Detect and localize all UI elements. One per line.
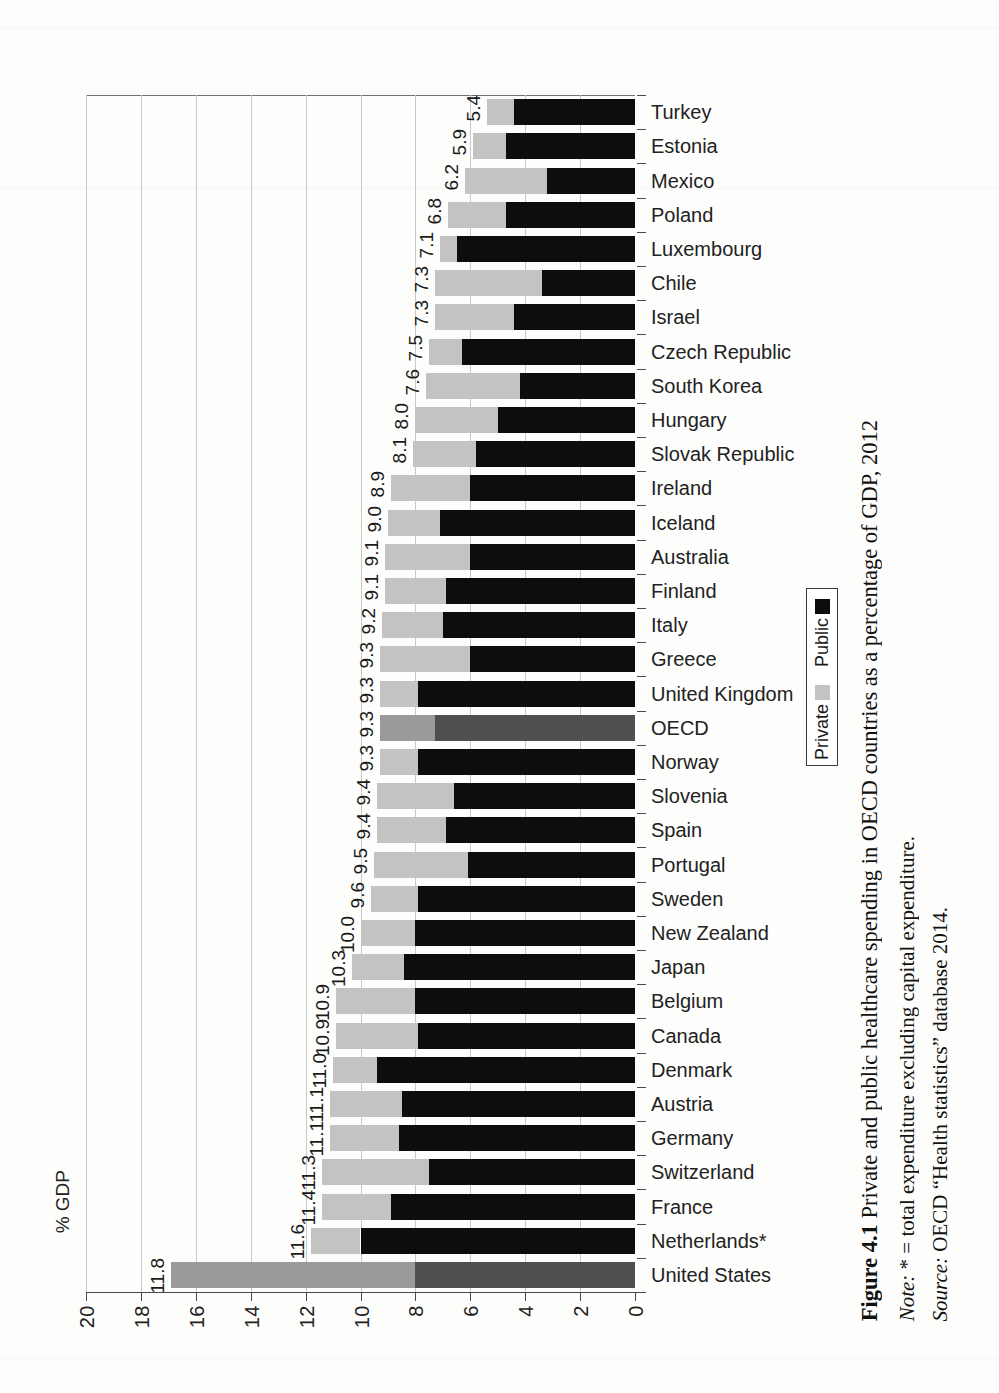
axis-tick-label: 16 xyxy=(186,1305,209,1328)
bar-segment-private xyxy=(487,99,514,125)
bar-value-label: 11.6 xyxy=(287,1224,309,1260)
axis-tick-label: 18 xyxy=(131,1305,154,1328)
category-label: Sweden xyxy=(651,888,723,911)
bar-segment-private xyxy=(336,988,416,1014)
bar-segment-public xyxy=(462,339,635,365)
bar-row xyxy=(0,1023,999,1049)
bar-row xyxy=(0,304,999,330)
bar-segment-public xyxy=(440,510,635,536)
bar-segment-public xyxy=(454,783,635,809)
source-prefix: Source: xyxy=(928,1256,952,1321)
bar-value-label: 9.5 xyxy=(350,848,372,874)
axis-tick xyxy=(361,1292,362,1301)
category-label: Finland xyxy=(651,580,717,603)
bar-row xyxy=(0,99,999,125)
category-tick xyxy=(637,676,646,677)
category-label: Italy xyxy=(651,614,688,637)
category-label: Greece xyxy=(651,648,717,671)
bar-value-label: 9.2 xyxy=(358,608,380,634)
category-label: Japan xyxy=(651,956,706,979)
category-label: Luxembourg xyxy=(651,238,762,261)
bar-segment-private xyxy=(435,304,515,330)
axis-tick xyxy=(470,1292,471,1301)
category-tick xyxy=(637,608,646,609)
bar-row xyxy=(0,1159,999,1185)
bar-value-label: 9.3 xyxy=(356,677,378,703)
category-label: Slovak Republic xyxy=(651,443,794,466)
category-label: Denmark xyxy=(651,1059,732,1082)
bar-segment-public xyxy=(361,1228,636,1254)
category-tick xyxy=(637,334,646,335)
bar-segment-public xyxy=(514,99,635,125)
bar-value-label: 9.4 xyxy=(353,779,375,805)
bar-value-label: 10.0 xyxy=(337,916,359,953)
category-label: Ireland xyxy=(651,477,712,500)
bar-segment-public xyxy=(457,236,635,262)
bar-value-label: 7.1 xyxy=(416,232,438,258)
figure-source: Source: OECD “Health statistics” databas… xyxy=(928,907,953,1321)
axis-tick xyxy=(251,1292,252,1301)
legend-swatch xyxy=(815,685,830,700)
bar-row xyxy=(0,920,999,946)
bar-segment-public xyxy=(443,612,635,638)
category-tick xyxy=(637,300,646,301)
bar-row xyxy=(0,646,999,672)
bar-segment-private xyxy=(448,202,506,228)
bar-row xyxy=(0,783,999,809)
bar-segment-private xyxy=(330,1125,399,1151)
bar-segment-private xyxy=(382,612,442,638)
legend-entry: Public xyxy=(807,599,837,667)
bar-row xyxy=(0,1057,999,1083)
figure-note: Note: * = total expenditure excluding ca… xyxy=(895,836,920,1321)
bar-value-label: 10.3 xyxy=(328,950,350,987)
bar-row xyxy=(0,510,999,536)
category-tick xyxy=(637,403,646,404)
category-tick xyxy=(637,813,646,814)
category-label: Mexico xyxy=(651,170,714,193)
category-label: OECD xyxy=(651,717,709,740)
category-label: Canada xyxy=(651,1025,721,1048)
figure-title-text: Private and public healthcare spending i… xyxy=(857,420,882,1224)
bar-segment-public xyxy=(520,373,635,399)
axis-tick-label: 14 xyxy=(241,1305,264,1328)
bar-segment-public xyxy=(476,441,635,467)
category-label: Switzerland xyxy=(651,1161,754,1184)
bar-value-label: 8.0 xyxy=(391,403,413,429)
category-label: Portugal xyxy=(651,854,726,877)
category-label: Germany xyxy=(651,1127,733,1150)
bar-row xyxy=(0,1091,999,1117)
bar-segment-private xyxy=(171,1262,415,1288)
chart-plot-area: 02468101214161820 5.45.96.26.87.17.37.37… xyxy=(0,0,999,1393)
axis-tick xyxy=(415,1292,416,1301)
category-tick xyxy=(637,1087,646,1088)
bar-segment-public xyxy=(429,1159,635,1185)
bar-segment-private xyxy=(380,715,435,741)
category-label: South Korea xyxy=(651,375,762,398)
axis-tick-label: 0 xyxy=(625,1305,648,1317)
bar-value-label: 9.1 xyxy=(361,540,383,566)
category-tick xyxy=(637,505,646,506)
bar-value-label: 10.9 xyxy=(312,1019,334,1056)
bar-segment-public xyxy=(391,1194,635,1220)
bar-segment-private xyxy=(380,646,471,672)
bar-segment-public xyxy=(415,920,635,946)
legend-swatch xyxy=(815,599,830,614)
category-tick xyxy=(637,779,646,780)
bar-value-label: 9.3 xyxy=(356,642,378,668)
chart-legend: PublicPrivate xyxy=(806,588,838,766)
bar-segment-private xyxy=(333,1057,377,1083)
category-tick xyxy=(637,916,646,917)
category-tick xyxy=(637,198,646,199)
category-tick xyxy=(637,369,646,370)
bar-segment-private xyxy=(352,954,404,980)
bar-row xyxy=(0,339,999,365)
category-tick xyxy=(637,232,646,233)
axis-tick-label: 12 xyxy=(296,1305,319,1328)
value-axis-title: % GDP xyxy=(52,1170,74,1233)
category-tick xyxy=(637,1189,646,1190)
bar-segment-public xyxy=(377,1057,635,1083)
bar-segment-private xyxy=(435,270,542,296)
bar-value-label: 11.0 xyxy=(309,1053,331,1089)
axis-tick-label: 4 xyxy=(515,1305,538,1317)
bar-row xyxy=(0,270,999,296)
